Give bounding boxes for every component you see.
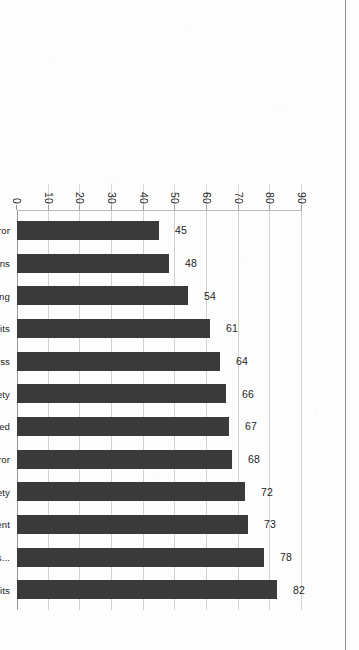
bar-slot: 61 xyxy=(17,312,302,345)
bar xyxy=(17,450,232,469)
bar-slot: 68 xyxy=(17,443,302,476)
bar-slot: 72 xyxy=(17,475,302,508)
category-slot: Overall perceptions of patient safety xyxy=(16,377,17,410)
bar-slot: 78 xyxy=(17,541,302,574)
axis-tick-label: 10 xyxy=(43,180,55,204)
bar-value-label: 54 xyxy=(204,290,216,302)
bar xyxy=(17,221,160,240)
axis-tick-label: 80 xyxy=(264,180,276,204)
bar-slot: 73 xyxy=(17,508,302,541)
category-axis-labels: Nonpunitive response to errorHandoffs an… xyxy=(16,210,17,610)
bar-value-label: 73 xyxy=(264,518,276,530)
bar-series: 454854616466676872737882 xyxy=(17,210,302,610)
category-slot: Supervisor/manager expectations and acti… xyxy=(16,541,17,574)
bar-chart: 0102030405060708090 45485461646667687273… xyxy=(0,0,330,650)
bar xyxy=(17,286,188,305)
category-label: Management support for patient safety xyxy=(0,486,10,497)
category-label: Teamwork across units xyxy=(0,323,10,334)
axis-tick-label: 40 xyxy=(138,180,150,204)
bar-slot: 66 xyxy=(17,377,302,410)
category-label: Overall perceptions of patient safety xyxy=(0,388,10,399)
category-label: Handoffs and transitions xyxy=(0,258,10,269)
category-slot: Organizational learning—continuous impro… xyxy=(16,508,17,541)
bar-slot: 54 xyxy=(17,279,302,312)
bar xyxy=(17,384,226,403)
category-slot: Staffing xyxy=(16,279,17,312)
category-slot: Teamwork across units xyxy=(16,312,17,345)
bar-value-label: 67 xyxy=(245,420,257,432)
category-slot: Nonpunitive response to error xyxy=(16,214,17,247)
plot-area: 0102030405060708090 45485461646667687273… xyxy=(17,210,302,610)
bar-value-label: 61 xyxy=(226,322,238,334)
bar xyxy=(17,319,210,338)
axis-tick-label: 30 xyxy=(106,180,118,204)
scanned-page: 0102030405060708090 45485461646667687273… xyxy=(0,0,359,650)
category-slot: Communication openness xyxy=(16,345,17,378)
bar-value-label: 66 xyxy=(242,388,254,400)
bar-slot: 45 xyxy=(17,214,302,247)
category-slot: Frequency of events reported xyxy=(16,410,17,443)
category-label: Supervisor/manager expectations and acti… xyxy=(0,552,10,563)
category-label: Nonpunitive response to error xyxy=(0,225,10,236)
bar-slot: 67 xyxy=(17,410,302,443)
bar xyxy=(17,515,248,534)
category-label: Organizational learning—continuous impro… xyxy=(0,519,10,530)
axis-tick-label: 90 xyxy=(296,180,308,204)
bar-value-label: 48 xyxy=(185,257,197,269)
category-slot: Handoffs and transitions xyxy=(16,247,17,280)
bar-value-label: 78 xyxy=(280,551,292,563)
category-label: Staffing xyxy=(0,290,10,301)
category-slot: Feedback and communication about error xyxy=(16,443,17,476)
category-label: Frequency of events reported xyxy=(0,421,10,432)
axis-tick-label: 60 xyxy=(201,180,213,204)
bar-value-label: 82 xyxy=(293,584,305,596)
bar-slot: 64 xyxy=(17,345,302,378)
bar xyxy=(17,482,245,501)
bar-value-label: 45 xyxy=(176,224,188,236)
axis-tick-label: 50 xyxy=(169,180,181,204)
category-label: Feedback and communication about error xyxy=(0,454,10,465)
rotated-chart-container: 0102030405060708090 45485461646667687273… xyxy=(0,0,330,650)
category-label: Communication openness xyxy=(0,356,10,367)
bar xyxy=(17,352,220,371)
axis-tick-label: 0 xyxy=(11,180,23,204)
category-slot: Teamwork within units xyxy=(16,573,17,606)
axis-tick-label: 20 xyxy=(74,180,86,204)
category-slot: Management support for patient safety xyxy=(16,475,17,508)
category-label: Teamwork within units xyxy=(0,584,10,595)
bar xyxy=(17,254,169,273)
bar xyxy=(17,548,264,567)
bar-value-label: 72 xyxy=(261,486,273,498)
bar xyxy=(17,417,229,436)
bar-value-label: 68 xyxy=(248,453,260,465)
bar-slot: 48 xyxy=(17,247,302,280)
bar-value-label: 64 xyxy=(236,355,248,367)
page-edge-line xyxy=(345,0,346,650)
axis-tick-label: 70 xyxy=(233,180,245,204)
bar-slot: 82 xyxy=(17,573,302,606)
bar xyxy=(17,580,277,599)
